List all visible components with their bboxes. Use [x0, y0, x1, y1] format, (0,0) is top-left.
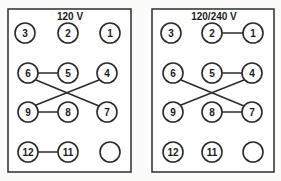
terminal-label: 5 [65, 68, 71, 79]
terminal-label: 11 [63, 147, 74, 158]
terminal-label: 9 [170, 107, 176, 118]
terminal-1[interactable]: 1 [100, 23, 120, 43]
terminal-2[interactable]: 2 [202, 23, 222, 43]
terminal-9[interactable]: 9 [18, 102, 38, 122]
terminal-label: 6 [25, 68, 31, 79]
terminal-label: 2 [65, 28, 71, 39]
terminal-9[interactable]: 9 [163, 102, 183, 122]
terminal-8[interactable]: 8 [202, 102, 222, 122]
terminal-5[interactable]: 5 [58, 63, 78, 83]
terminal-circle-icon [100, 142, 120, 162]
terminal-6[interactable]: 6 [163, 63, 183, 83]
terminal-12[interactable]: 12 [163, 142, 183, 162]
terminal-label: 4 [249, 68, 255, 79]
terminal-label: 3 [168, 28, 174, 39]
terminal-blank[interactable] [100, 142, 120, 162]
terminal-label: 2 [209, 28, 215, 39]
terminal-label: 5 [209, 68, 215, 79]
panel-panel-120-240v: 120/240 V3216549871211 [152, 9, 274, 172]
terminal-4[interactable]: 4 [97, 63, 117, 83]
terminal-11[interactable]: 11 [202, 142, 222, 162]
terminal-8[interactable]: 8 [58, 102, 78, 122]
terminal-label: 1 [107, 28, 113, 39]
terminal-label: 12 [167, 147, 179, 158]
terminal-label: 3 [22, 28, 28, 39]
terminal-label: 8 [65, 107, 71, 118]
terminal-5[interactable]: 5 [202, 63, 222, 83]
terminal-1[interactable]: 1 [243, 23, 263, 43]
terminal-circle-icon [243, 142, 263, 162]
panel-title: 120/240 V [191, 11, 237, 22]
wiring-diagram: 120 V3216549871211120/240 V3216549871211 [0, 0, 281, 181]
terminal-12[interactable]: 12 [18, 142, 38, 162]
terminal-label: 7 [104, 107, 110, 118]
terminal-label: 11 [207, 147, 218, 158]
terminal-label: 4 [104, 68, 110, 79]
terminal-7[interactable]: 7 [242, 102, 262, 122]
terminal-label: 8 [209, 107, 215, 118]
terminal-6[interactable]: 6 [18, 63, 38, 83]
terminal-label: 6 [170, 68, 176, 79]
terminal-11[interactable]: 11 [58, 142, 78, 162]
terminal-label: 9 [25, 107, 31, 118]
terminal-label: 1 [250, 28, 256, 39]
terminal-label: 7 [249, 107, 255, 118]
panel-title: 120 V [57, 11, 83, 22]
terminal-blank[interactable] [243, 142, 263, 162]
terminal-7[interactable]: 7 [97, 102, 117, 122]
terminal-label: 12 [22, 147, 34, 158]
diagram-canvas: 120 V3216549871211120/240 V3216549871211 [0, 0, 281, 181]
terminal-3[interactable]: 3 [161, 23, 181, 43]
terminal-3[interactable]: 3 [15, 23, 35, 43]
panel-panel-120v: 120 V3216549871211 [8, 9, 131, 172]
terminal-4[interactable]: 4 [242, 63, 262, 83]
terminal-2[interactable]: 2 [58, 23, 78, 43]
